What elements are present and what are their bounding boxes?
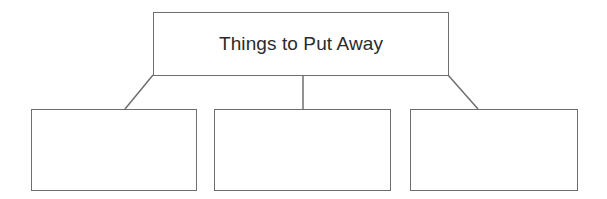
tree-diagram: Things to Put Away	[0, 0, 607, 199]
connector-left	[125, 75, 153, 109]
child-node-right	[410, 109, 578, 191]
connector-right	[448, 75, 478, 109]
root-node-title: Things to Put Away	[219, 33, 383, 55]
child-node-left	[31, 109, 197, 191]
root-node: Things to Put Away	[153, 12, 449, 76]
child-node-middle	[214, 109, 391, 191]
